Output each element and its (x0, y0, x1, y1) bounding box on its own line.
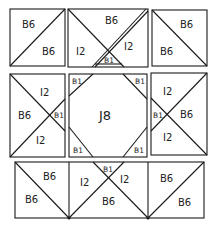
piece-label: B6 (25, 194, 38, 205)
piece-label: B1 (103, 165, 113, 174)
piece-label: B6 (178, 197, 191, 208)
bottom-row: B6 B6 B1 I2 I2 B6 B6 B6 (15, 162, 204, 220)
block-middle-right: I2 B1 B6 I2 (151, 73, 207, 155)
vertex-dot (68, 217, 71, 220)
piece-label: I2 (120, 174, 129, 185)
diagonal-line (148, 162, 204, 218)
piece-label: B6 (22, 19, 35, 30)
piece-label: B6 (102, 196, 115, 207)
diagonal-line (10, 99, 65, 157)
diagonal-line (151, 73, 207, 131)
piece-label: B6 (42, 46, 55, 57)
piece-label: B6 (180, 109, 193, 120)
block-center: B1 B1 J8 B1 B1 (69, 74, 147, 157)
piece-label: I2 (80, 177, 89, 188)
diagonal-line (15, 162, 69, 218)
piece-label: B6 (18, 110, 31, 121)
quilt-diagram: B6 B6 B6 I2 I2 B1 B6 B6 I2 B6 B1 I2 B1 B… (0, 0, 214, 228)
piece-label: B1 (153, 111, 163, 120)
piece-label: B6 (160, 173, 173, 184)
piece-label: I2 (163, 132, 172, 143)
piece-label: B1 (72, 77, 82, 86)
block-top-center: B6 I2 I2 B1 (68, 9, 148, 67)
block-middle-left: I2 B6 B1 I2 (10, 74, 65, 157)
piece-label: J8 (98, 108, 111, 123)
block-bottom-right: B6 B6 (148, 162, 204, 218)
piece-label: B6 (105, 15, 118, 26)
piece-label: B1 (104, 56, 114, 65)
diagonal-line (10, 9, 65, 66)
piece-label: B6 (160, 46, 173, 57)
diagonal-line (10, 74, 65, 131)
block-top-right: B6 B6 (152, 10, 207, 66)
double-line-b (95, 11, 148, 67)
block-bottom-left: B6 B6 (15, 162, 69, 218)
block-bottom-center: B1 I2 I2 B6 (69, 162, 148, 218)
block-top-left: B6 B6 (10, 9, 65, 66)
piece-label: B1 (73, 146, 83, 155)
vertex-dot (147, 217, 150, 220)
diagonal-line (69, 162, 124, 218)
piece-label: I2 (76, 46, 85, 57)
piece-label: I2 (40, 87, 49, 98)
diagonal-line (151, 98, 207, 155)
piece-label: I2 (124, 41, 133, 52)
piece-label: B1 (135, 77, 145, 86)
double-line-a (92, 9, 146, 67)
piece-label: I2 (36, 135, 45, 146)
piece-label: I2 (163, 86, 172, 97)
piece-label: B1 (54, 111, 64, 120)
piece-label: B6 (180, 19, 193, 30)
piece-label: B1 (134, 146, 144, 155)
diagonal-line (93, 162, 148, 218)
piece-label: B6 (43, 171, 56, 182)
